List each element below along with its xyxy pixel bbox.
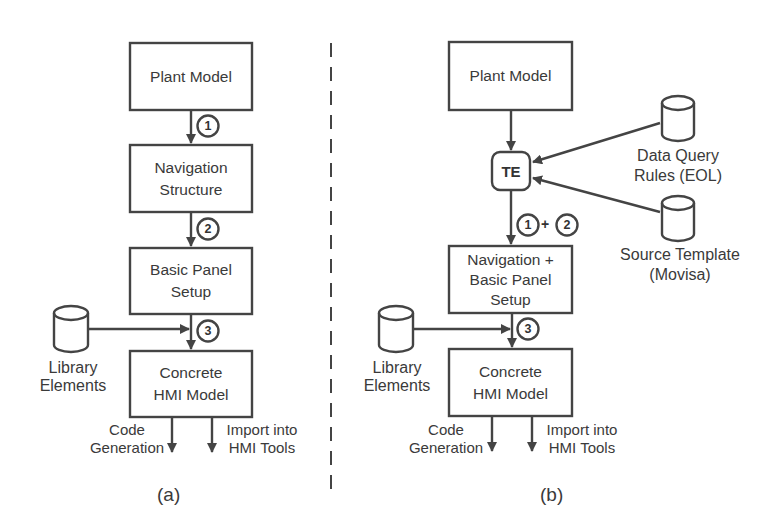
a-library-cylinder-icon [54, 306, 88, 352]
b-codegen-label: Code Generation [403, 421, 489, 457]
a-codegen-label: Code Generation [84, 421, 170, 457]
a-library-label: Library Elements [28, 359, 118, 395]
a-basic-panel-label: Basic Panel Setup [130, 248, 252, 314]
b-import-label: Import into HMI Tools [538, 421, 626, 457]
b-source-cylinder-icon [662, 196, 694, 241]
a-caption: (a) [157, 484, 180, 506]
b-caption: (b) [540, 484, 563, 506]
b-library-cylinder-icon [379, 306, 413, 352]
b-library-label: Library Elements [352, 359, 442, 395]
b-source-template-label: Source Template (Movisa) [605, 245, 755, 285]
b-step-plus: + [541, 216, 549, 232]
b-te-label: TE [492, 152, 530, 190]
a-step-2: 2 [197, 218, 219, 240]
b-plant-model-label: Plant Model [449, 42, 572, 110]
b-step-3: 3 [517, 318, 539, 340]
b-step-2: 2 [556, 214, 578, 236]
a-step-1: 1 [197, 115, 219, 137]
a-step-3: 3 [197, 320, 219, 342]
b-nav-basic-label: Navigation + Basic Panel Setup [449, 244, 572, 316]
a-concrete-hmi-label: Concrete HMI Model [130, 351, 252, 417]
b-dataquery-label: Data Query Rules (EOL) [620, 146, 736, 186]
b-concrete-hmi-label: Concrete HMI Model [449, 349, 572, 416]
a-import-label: Import into HMI Tools [218, 421, 306, 457]
b-dataquery-cylinder-icon [662, 96, 694, 141]
a-navigation-structure-label: Navigation Structure [130, 145, 252, 212]
b-step-1: 1 [517, 214, 539, 236]
a-plant-model-label: Plant Model [130, 43, 252, 110]
